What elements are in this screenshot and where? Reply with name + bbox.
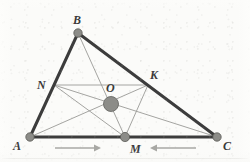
point-M	[120, 132, 129, 141]
label-B: B	[73, 14, 81, 26]
point-O-centroid	[104, 97, 119, 112]
label-C: C	[223, 140, 231, 152]
point-C	[213, 133, 221, 141]
arrow-left-head	[150, 145, 157, 152]
label-O: O	[106, 82, 115, 94]
arrows-group	[55, 145, 196, 152]
label-A: A	[13, 140, 21, 152]
label-K: K	[150, 69, 158, 81]
point-B	[74, 29, 82, 37]
label-M: M	[130, 143, 141, 155]
inner-segments-group	[30, 33, 217, 137]
arrow-right-head	[94, 145, 101, 152]
midsegment-M-K	[125, 85, 148, 137]
geometry-figure: A B C M N K O	[0, 0, 250, 162]
point-A	[26, 133, 34, 141]
label-N: N	[37, 79, 46, 91]
median-C-N	[54, 85, 217, 137]
